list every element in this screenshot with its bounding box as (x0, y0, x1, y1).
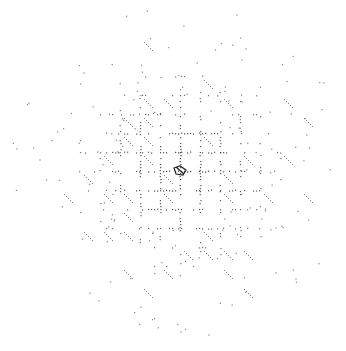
dot-pattern-diagram (0, 0, 346, 351)
lattice-dots (13, 11, 331, 336)
